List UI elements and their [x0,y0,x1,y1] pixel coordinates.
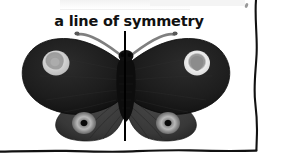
right-forewing-eyespot [184,51,210,76]
page-speck [244,3,249,9]
right-forewing [126,39,229,115]
left-antenna-club [74,31,79,35]
symmetry-line [124,31,126,141]
right-antenna-club [172,31,177,35]
worksheet-page: a line of symmetry [0,0,282,157]
left-forewing-eyespot [43,51,70,76]
page-border-bottom-edge [0,150,256,152]
left-forewing [22,39,125,115]
scan-artifact-band-secondary [150,0,245,6]
butterfly-illustration [12,26,240,146]
right-hindwing-eyespot [156,112,180,134]
left-hindwing-eyespot [72,112,96,134]
